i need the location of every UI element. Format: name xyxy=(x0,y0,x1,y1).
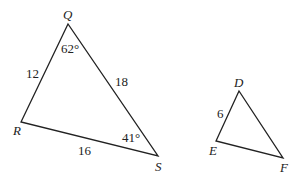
side-de-label: 6 xyxy=(217,106,224,121)
vertex-d-label: D xyxy=(233,75,244,90)
side-qr-label: 12 xyxy=(26,66,39,81)
side-rs-label: 16 xyxy=(78,143,92,158)
triangle-def: D E F 6 xyxy=(208,75,289,175)
vertex-r-label: R xyxy=(12,123,21,138)
vertex-f-label: F xyxy=(279,160,289,175)
triangle-def-shape xyxy=(216,91,283,158)
angle-q-label: 62° xyxy=(61,41,79,56)
angle-s-label: 41° xyxy=(122,130,140,145)
vertex-s-label: S xyxy=(155,159,162,174)
vertex-e-label: E xyxy=(208,143,217,158)
triangle-qrs: Q R S 62° 41° 12 18 16 xyxy=(12,7,162,174)
side-qs-label: 18 xyxy=(115,74,128,89)
similar-triangles-diagram: Q R S 62° 41° 12 18 16 D E F 6 xyxy=(0,0,295,177)
vertex-q-label: Q xyxy=(63,7,73,22)
